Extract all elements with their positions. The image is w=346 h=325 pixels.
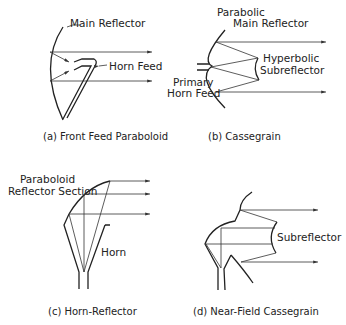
main-reflector-d bbox=[205, 192, 252, 290]
panel-cassegrain: Parabolic Main Reflector Hyperbolic Subr… bbox=[167, 6, 326, 142]
label-horn: Horn bbox=[101, 246, 126, 258]
label-main-reflector: Main Reflector bbox=[70, 17, 146, 29]
caption-b: (b) Cassegrain bbox=[208, 131, 281, 142]
panel-front-feed-paraboloid: Main Reflector Horn Feed (a) Front Feed … bbox=[43, 17, 168, 142]
label-hyperbolic: Hyperbolic bbox=[263, 52, 319, 64]
primary-horn-feed bbox=[197, 64, 209, 70]
label-subreflector-b: Subreflector bbox=[260, 64, 325, 76]
panel-horn-reflector: Paraboloid Reflector Section Horn (c) Ho… bbox=[8, 173, 150, 317]
panel-near-field-cassegrain: Subreflector (d) Near-Field Cassegrain bbox=[193, 192, 342, 317]
caption-c: (c) Horn-Reflector bbox=[48, 306, 138, 317]
label-subreflector-d: Subreflector bbox=[277, 231, 342, 243]
horn-feed bbox=[67, 59, 96, 118]
label-horn-feed-b: Horn Feed bbox=[167, 87, 221, 99]
label-main-reflector-b: Main Reflector bbox=[233, 17, 309, 29]
hyperbolic-subreflector bbox=[255, 58, 259, 80]
label-reflector-section: Reflector Section bbox=[8, 185, 97, 197]
label-horn-feed: Horn Feed bbox=[109, 60, 163, 72]
main-reflector-curve bbox=[51, 27, 64, 120]
antenna-diagram: Main Reflector Horn Feed (a) Front Feed … bbox=[0, 0, 346, 325]
label-paraboloid: Paraboloid bbox=[20, 173, 75, 185]
caption-a: (a) Front Feed Paraboloid bbox=[43, 131, 168, 142]
caption-d: (d) Near-Field Cassegrain bbox=[193, 306, 319, 317]
